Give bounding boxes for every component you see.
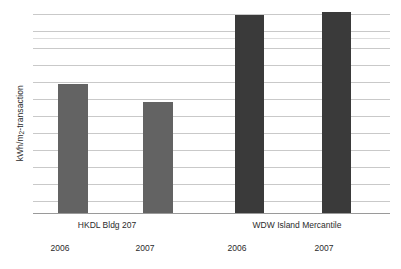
- bar-hkdl-2006: [58, 84, 88, 214]
- tick-label-hkdl-2006: 2006: [38, 243, 82, 253]
- y-axis-title-subscript: 2: [18, 130, 25, 134]
- group-label-hkdl: HKDL Bldg 207: [47, 220, 167, 230]
- bar-wdw-2006: [235, 15, 264, 214]
- tick-label-hkdl-2007: 2007: [123, 243, 167, 253]
- y-axis-title-text: kWh/m2-transaction: [15, 85, 25, 161]
- y-axis-title: kWh/m2-transaction: [13, 68, 27, 178]
- bar-wdw-2007: [322, 12, 351, 214]
- y-axis-title-suffix: -transaction: [15, 85, 25, 131]
- tick-label-wdw-2006: 2006: [215, 243, 259, 253]
- category-axis-line: [33, 213, 390, 214]
- group-label-wdw: WDW Island Mercantile: [222, 220, 372, 230]
- bar-hkdl-2007: [143, 102, 173, 214]
- y-axis-title-prefix: kWh/m: [15, 134, 25, 161]
- plot-area: [33, 14, 390, 214]
- bar-chart: kWh/m2-transaction HKDL Bldg 207 WDW Isl…: [0, 0, 401, 269]
- tick-label-wdw-2007: 2007: [302, 243, 346, 253]
